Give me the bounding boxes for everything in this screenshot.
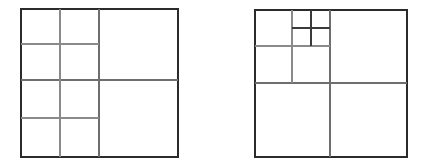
left-quadtree-figure (21, 9, 178, 157)
right-quadtree-figure (255, 10, 407, 157)
quadtree-figure-canvas (0, 0, 426, 166)
